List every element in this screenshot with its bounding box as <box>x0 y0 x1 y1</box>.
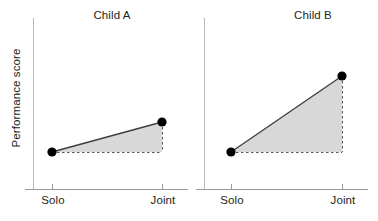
chart-svg <box>0 0 378 221</box>
panel-a-xtick-label-solo: Solo <box>18 194 88 206</box>
panel-b-xtick-label-solo: Solo <box>197 194 267 206</box>
panel-b-point-solo <box>226 147 235 156</box>
panel-a-point-joint <box>157 117 166 126</box>
panel-b-title: Child B <box>253 9 373 21</box>
figure-container: Performance score Child A Child <box>0 0 378 221</box>
panel-a-point-solo <box>47 147 56 156</box>
panel-a-xtick-label-joint: Joint <box>128 194 198 206</box>
panel-b-xtick-label-joint: Joint <box>308 194 378 206</box>
panel-b-point-joint <box>337 71 346 80</box>
